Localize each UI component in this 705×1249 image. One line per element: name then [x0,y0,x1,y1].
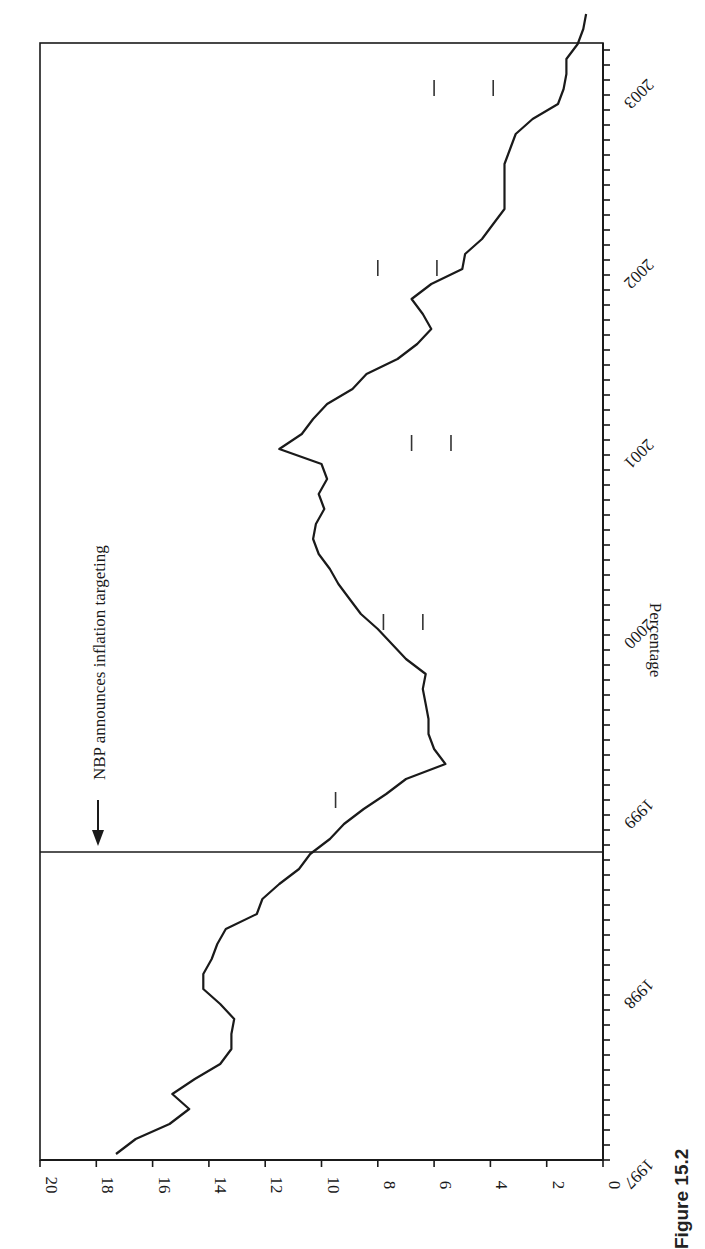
percentage-tick-label: 16 [155,1177,174,1194]
year-tick-label: 2002 [620,255,657,292]
percentage-tick-label: 0 [605,1181,624,1190]
year-tick-label: 2003 [620,75,657,112]
figure-caption: Figure 15.2 [671,1149,692,1249]
year-tick-label: 2001 [620,435,657,472]
percentage-tick-label: 20 [42,1177,61,1194]
chart: 02468101214161820 1997199819992000200120… [0,0,705,1249]
plot-frame [40,43,603,1160]
target-markers [336,80,494,808]
month-ticks [603,50,610,1160]
year-tick-label: 1998 [620,975,657,1012]
percentage-tick-label: 14 [211,1177,230,1195]
inflation-line [116,14,586,1154]
percentage-tick-label: 18 [98,1177,117,1194]
percentage-tick-label: 12 [267,1177,286,1194]
annotation-text: NBP announces inflation targeting [90,545,109,780]
percentage-tick-label: 4 [492,1181,511,1190]
y-axis-title: Percentage [646,603,665,678]
percentage-tick-label: 6 [436,1181,455,1190]
percentage-tick-label: 8 [380,1181,399,1190]
percentage-tick-label: 10 [324,1177,343,1194]
year-tick-label: 1999 [620,795,657,832]
percentage-tick-label: 2 [549,1181,568,1190]
arrow-icon [92,800,104,846]
percentage-ticks: 02468101214161820 [40,1160,624,1194]
year-tick-label: 1997 [620,1155,658,1193]
